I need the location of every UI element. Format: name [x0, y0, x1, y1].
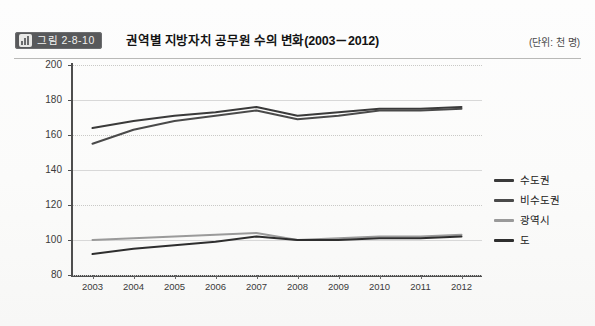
x-tick-mark-2008: [298, 275, 299, 279]
x-tick-label-2010: 2010: [360, 282, 400, 292]
series-line-도: [93, 237, 462, 255]
x-tick-mark-2009: [339, 275, 340, 279]
legend-label-1: 비수도권: [520, 195, 560, 206]
x-tick-label-2012: 2012: [442, 282, 482, 292]
x-tick-mark-2011: [421, 275, 422, 279]
legend-label-3: 도: [520, 235, 530, 246]
y-tick-label-80: 80: [51, 270, 62, 280]
x-tick-label-2008: 2008: [278, 282, 318, 292]
figure-number-label: 그림 2-8-10: [37, 35, 95, 46]
series-lines: [72, 65, 482, 275]
y-tick-label-160: 160: [45, 130, 62, 140]
x-tick-mark-2005: [175, 275, 176, 279]
x-tick-label-2003: 2003: [73, 282, 113, 292]
y-tick-label-180: 180: [45, 95, 62, 105]
x-tick-mark-2006: [216, 275, 217, 279]
x-tick-label-2005: 2005: [155, 282, 195, 292]
x-tick-label-2006: 2006: [196, 282, 236, 292]
x-tick-label-2009: 2009: [319, 282, 359, 292]
y-tick-label-120: 120: [45, 200, 62, 210]
series-line-비수도권: [93, 109, 462, 144]
line-chart: 80100120140160180200 2003200420052006200…: [0, 46, 595, 326]
legend-item-1: 비수도권: [494, 194, 560, 206]
x-tick-label-2007: 2007: [237, 282, 277, 292]
legend-label-0: 수도권: [520, 175, 550, 186]
legend-item-3: 도: [494, 234, 560, 246]
figure-page: 그림 2-8-10 권역별 지방자치 공무원 수의 변화(2003－2012) …: [0, 0, 595, 326]
x-tick-mark-2003: [93, 275, 94, 279]
y-tick-mark-80: [68, 275, 73, 276]
x-tick-mark-2007: [257, 275, 258, 279]
legend-swatch-0: [494, 179, 514, 182]
x-tick-mark-2004: [134, 275, 135, 279]
legend-item-2: 광역시: [494, 214, 560, 226]
x-tick-label-2004: 2004: [114, 282, 154, 292]
y-tick-label-140: 140: [45, 165, 62, 175]
chart-legend: 수도권 비수도권 광역시 도: [494, 174, 560, 254]
x-tick-label-2011: 2011: [401, 282, 441, 292]
x-tick-mark-2010: [380, 275, 381, 279]
legend-item-0: 수도권: [494, 174, 560, 186]
plot-area: [72, 65, 482, 275]
legend-swatch-1: [494, 199, 514, 202]
x-tick-mark-2012: [462, 275, 463, 279]
y-tick-label-100: 100: [45, 235, 62, 245]
legend-label-2: 광역시: [520, 215, 550, 226]
figure-header: 그림 2-8-10 권역별 지방자치 공무원 수의 변화(2003－2012) …: [0, 12, 595, 46]
legend-swatch-3: [494, 239, 514, 242]
legend-swatch-2: [494, 219, 514, 222]
y-tick-label-200: 200: [45, 60, 62, 70]
